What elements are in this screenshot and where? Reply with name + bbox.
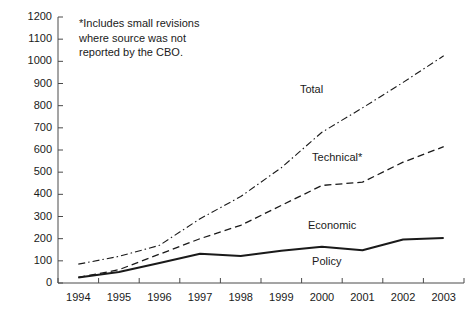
y-tick-label: 900 — [12, 78, 52, 89]
annotation-line: *Includes small revisions — [79, 16, 249, 31]
series-label-policy: Policy — [312, 256, 341, 267]
y-tick-label: 100 — [12, 255, 52, 266]
series-label-technical: Technical* — [312, 152, 362, 163]
x-tick-label: 2000 — [300, 292, 344, 303]
series-line-economic — [78, 238, 443, 277]
series-line-total — [78, 56, 443, 264]
series-label-economic: Economic — [308, 220, 356, 231]
y-tick-label: 200 — [12, 233, 52, 244]
y-tick-label: 400 — [12, 188, 52, 199]
x-tick-label: 1995 — [97, 292, 141, 303]
x-tick-label: 1997 — [178, 292, 222, 303]
y-tick-label: 300 — [12, 211, 52, 222]
x-tick-label: 1998 — [219, 292, 263, 303]
y-tick-label: 500 — [12, 166, 52, 177]
annotation-line: where source was not — [79, 31, 249, 46]
series-line-technical — [78, 147, 443, 278]
x-tick-label: 1996 — [138, 292, 182, 303]
x-tick-label: 2002 — [381, 292, 425, 303]
y-tick-label: 1200 — [12, 11, 52, 22]
y-tick-label: 0 — [12, 277, 52, 288]
y-tick-label: 800 — [12, 100, 52, 111]
x-tick-label: 1994 — [56, 292, 100, 303]
chart-annotation: *Includes small revisionswhere source wa… — [79, 16, 249, 60]
line-chart-figure: 0100200300400500600700800900100011001200… — [0, 0, 474, 313]
y-tick-label: 1000 — [12, 55, 52, 66]
y-tick-label: 600 — [12, 144, 52, 155]
y-tick-label: 700 — [12, 122, 52, 133]
x-axis-ticks — [58, 278, 464, 283]
x-tick-label: 1999 — [259, 292, 303, 303]
y-axis-ticks — [58, 17, 63, 283]
x-tick-label: 2001 — [341, 292, 385, 303]
x-tick-label: 2003 — [422, 292, 466, 303]
annotation-line: reported by the CBO. — [79, 45, 249, 60]
series-lines — [78, 56, 443, 278]
series-label-total: Total — [300, 84, 323, 95]
y-tick-label: 1100 — [12, 33, 52, 44]
